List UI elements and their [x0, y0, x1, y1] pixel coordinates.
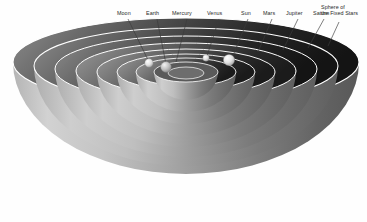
nested-spheres-diagram [0, 0, 367, 222]
venus-sphere [203, 55, 209, 61]
label-fixed-stars-line2: the Fixed Stars [321, 10, 358, 16]
label-jupiter[interactable]: Jupiter [286, 10, 303, 16]
label-mars[interactable]: Mars [263, 10, 275, 16]
earth-sphere [161, 62, 172, 73]
label-fixed-stars[interactable]: Sphere of the Fixed Stars [321, 4, 367, 16]
label-moon[interactable]: Moon [117, 10, 131, 16]
label-mercury[interactable]: Mercury [172, 10, 192, 16]
sun-sphere [223, 54, 234, 65]
label-sun[interactable]: Sun [241, 10, 251, 16]
cosmology-diagram-figure: Moon Earth Mercury Venus Sun Mars Jupite… [0, 0, 367, 222]
label-venus[interactable]: Venus [207, 10, 222, 16]
label-fixed-stars-line1: Sphere of [321, 4, 345, 10]
moon-sphere [145, 59, 153, 67]
label-earth[interactable]: Earth [146, 10, 159, 16]
